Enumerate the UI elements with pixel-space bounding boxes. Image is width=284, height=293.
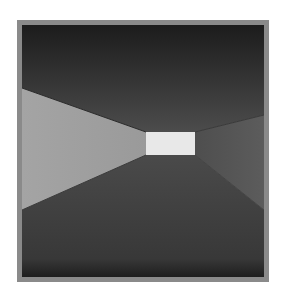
- corridor-render: [22, 25, 264, 277]
- image-frame: [17, 20, 269, 282]
- corridor-scene: [22, 25, 264, 277]
- bright-opening: [146, 132, 195, 155]
